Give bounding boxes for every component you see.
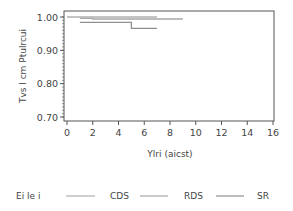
- y-tick-label: 1.00: [37, 12, 58, 23]
- plot-frame: [64, 11, 274, 121]
- series-lines: [67, 17, 183, 28]
- y-tick-label: 0.80: [37, 78, 58, 89]
- x-tick-label: 8: [167, 127, 173, 138]
- x-tick-label: 2: [90, 127, 96, 138]
- legend: Ei le i CDS RDS SR: [16, 191, 269, 201]
- y-axis: 0.700.800.901.00: [37, 12, 64, 123]
- x-axis-label: Ylri (aicst): [146, 149, 192, 159]
- series-sr: [80, 22, 157, 28]
- legend-label-rds: RDS: [184, 191, 203, 201]
- x-tick-label: 10: [190, 127, 202, 138]
- y-axis-label: Tvs l cm Ptulrcui: [18, 29, 28, 104]
- series-rds: [80, 18, 183, 19]
- survival-chart: 0.700.800.901.00 0246810121416 Tvs l cm …: [0, 0, 293, 211]
- y-tick-label: 0.90: [37, 45, 58, 56]
- x-tick-label: 16: [267, 127, 279, 138]
- legend-label-cds: CDS: [110, 191, 129, 201]
- x-tick-label: 4: [115, 127, 121, 138]
- x-axis: 0246810121416: [64, 121, 279, 138]
- x-tick-label: 0: [64, 127, 70, 138]
- plot-border: [64, 11, 274, 121]
- legend-title: Ei le i: [16, 191, 40, 201]
- x-tick-label: 14: [241, 127, 253, 138]
- y-tick-label: 0.70: [37, 112, 58, 123]
- legend-label-sr: SR: [257, 191, 269, 201]
- x-tick-label: 6: [141, 127, 147, 138]
- x-tick-label: 12: [215, 127, 227, 138]
